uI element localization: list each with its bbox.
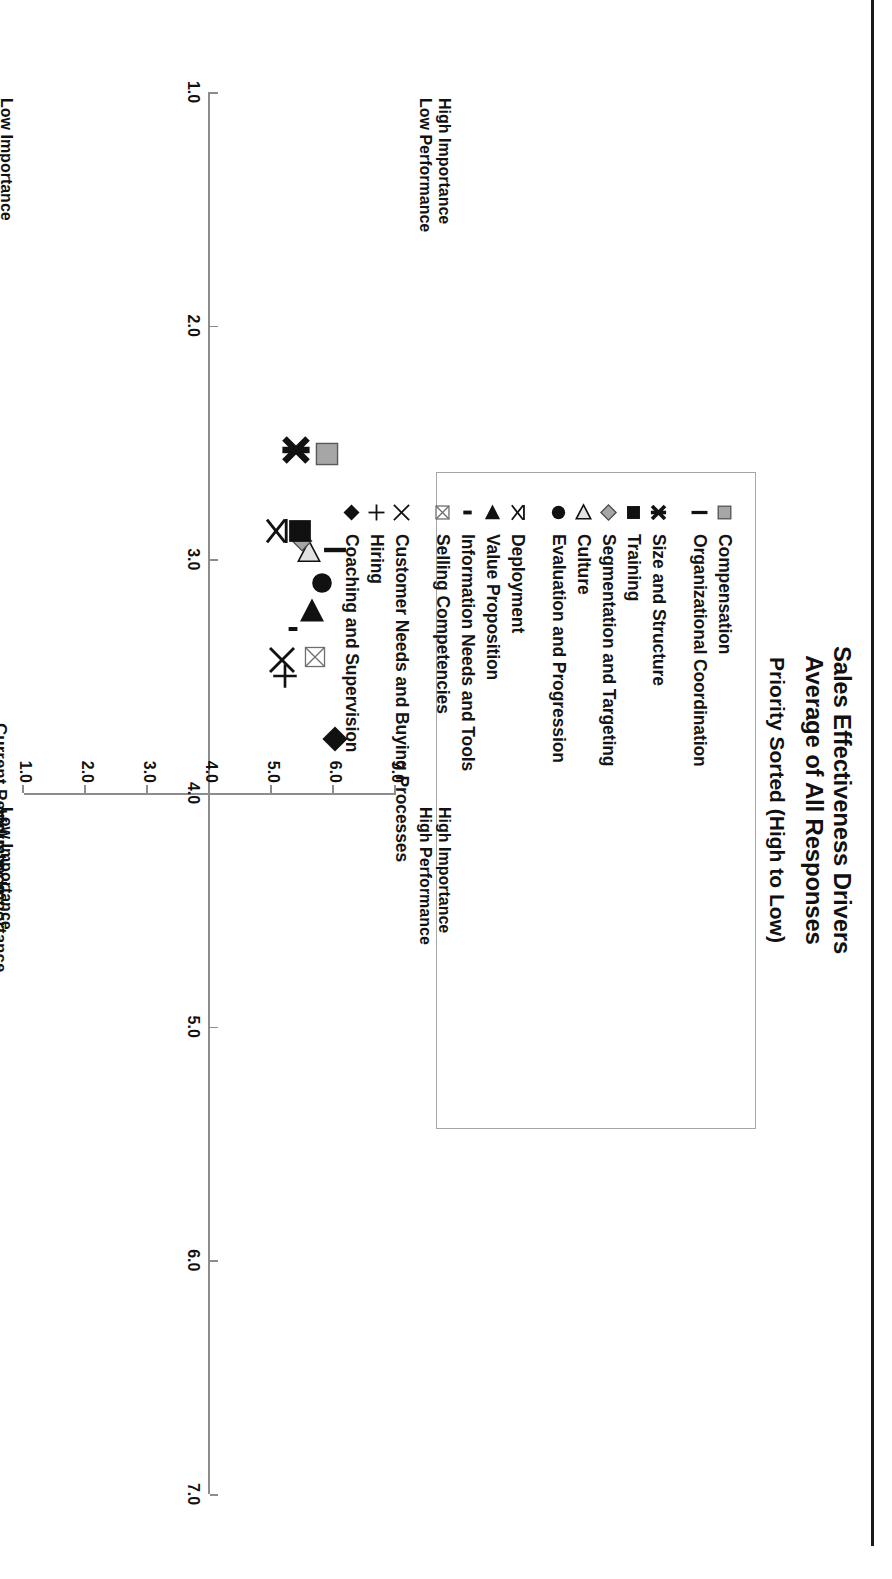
- legend-item-label: Information Needs and Tools: [457, 534, 478, 771]
- legend-item[interactable]: Size and Structure: [646, 499, 671, 1128]
- legend-item[interactable]: Culture: [571, 499, 596, 1128]
- x-tick-label: 2.0: [184, 310, 202, 342]
- page-top-rule: [871, 0, 874, 1546]
- data-point[interactable]: [275, 433, 313, 467]
- legend-item-label: Size and Structure: [648, 534, 669, 686]
- y-tick-label: 5.0: [264, 745, 282, 783]
- legend-item-label: Evaluation and Progression: [548, 534, 569, 763]
- y-tick: [271, 785, 273, 793]
- y-tick-label: 7.0: [388, 745, 406, 783]
- quadrant-label-top-left-line-1: High Importance: [435, 98, 454, 232]
- x-tick: [210, 1260, 218, 1262]
- x-tick: [210, 92, 218, 94]
- x-tick: [210, 1027, 218, 1029]
- thin-x-star-marker: [508, 499, 527, 525]
- quadrant-label-bottom-right-line-1: Low Importance: [0, 807, 16, 945]
- legend-item[interactable]: Deployment: [505, 499, 530, 1128]
- quadrant-label-top-left: High ImportanceLow Performance: [416, 98, 454, 232]
- data-point[interactable]: [318, 537, 348, 563]
- quadrant-label-top-left-line-2: Low Performance: [416, 98, 435, 232]
- legend-item-label: Selling Competencies: [432, 534, 453, 714]
- black-triangle-left-marker: [483, 499, 502, 525]
- y-tick: [147, 785, 149, 793]
- title-line-2: Average of All Responses: [800, 540, 828, 1060]
- black-circle-marker: [549, 499, 568, 525]
- black-square-marker: [624, 499, 643, 525]
- legend-item[interactable]: Organizational Coordination: [687, 499, 712, 1128]
- crossed-square-marker: [433, 499, 452, 525]
- y-tick: [395, 785, 397, 793]
- x-tick: [210, 793, 218, 795]
- chart-root: Sales Effectiveness Drivers Average of A…: [0, 0, 892, 1579]
- legend-item-label: Deployment: [507, 534, 528, 633]
- legend-item[interactable]: Information Needs and Tools: [455, 499, 480, 1128]
- gray-square-marker: [715, 499, 734, 525]
- legend-item[interactable]: Value Proposition: [480, 499, 505, 1128]
- page-title: Sales Effectiveness Drivers Average of A…: [800, 540, 856, 1060]
- legend-item-label: Organizational Coordination: [689, 534, 710, 767]
- legend-group: CompensationOrganizational Coordination: [687, 499, 737, 1128]
- quadrant-label-bottom-left-line-1: Low Importance: [0, 98, 16, 232]
- y-tick-label: 3.0: [140, 745, 158, 783]
- legend-item-label: Segmentation and Targeting: [598, 534, 619, 766]
- legend-item-label: Value Proposition: [482, 534, 503, 680]
- x-tick-label: 6.0: [184, 1244, 202, 1276]
- legend-item[interactable]: Compensation: [712, 499, 737, 1128]
- title-line-1: Sales Effectiveness Drivers: [828, 540, 856, 1060]
- x-tick-label: 1.0: [184, 76, 202, 108]
- data-point[interactable]: [307, 438, 343, 470]
- legend-item[interactable]: Segmentation and Targeting: [596, 499, 621, 1128]
- x-tick: [210, 326, 218, 328]
- data-point[interactable]: [304, 569, 336, 597]
- data-point[interactable]: [297, 643, 329, 671]
- x-tick-label: 3.0: [184, 543, 202, 575]
- gray-diamond-marker: [599, 499, 618, 525]
- quadrant-label-bottom-left: Low ImportanceLow Performance: [0, 98, 16, 232]
- y-tick-label: 2.0: [78, 745, 96, 783]
- y-tick: [23, 785, 25, 793]
- legend-items-container: CompensationOrganizational CoordinationS…: [339, 473, 755, 1128]
- quadrant-label-top-right-line-2: High Performance: [416, 807, 435, 945]
- y-tick: [85, 785, 87, 793]
- y-tick: [209, 785, 211, 793]
- chart-legend: CompensationOrganizational CoordinationS…: [436, 472, 756, 1129]
- data-point[interactable]: [316, 724, 350, 754]
- chart-subtitle: Priority Sorted (High to Low): [765, 540, 789, 1060]
- plot-area: 1.02.03.04.05.06.07.01.02.03.04.05.06.07…: [24, 92, 396, 1494]
- legend-item-label: Compensation: [714, 534, 735, 654]
- open-triangle-left-marker: [574, 499, 593, 525]
- legend-item-label: Training: [623, 534, 644, 601]
- y-tick: [333, 785, 335, 793]
- x-tick-label: 4.0: [184, 777, 202, 809]
- data-point[interactable]: [257, 516, 291, 546]
- x-tick-label: 5.0: [184, 1011, 202, 1043]
- legend-item[interactable]: Evaluation and Progression: [546, 499, 571, 1128]
- data-point[interactable]: [293, 596, 327, 626]
- quadrant-label-bottom-right: Low ImportanceHigh Performance: [0, 807, 16, 945]
- data-point[interactable]: [263, 645, 297, 675]
- black-dash-marker: [458, 499, 477, 525]
- y-tick-label: 4.0: [202, 745, 220, 783]
- legend-group: Size and StructureTrainingSegmentation a…: [546, 499, 671, 1128]
- x-tick-label: 7.0: [184, 1478, 202, 1510]
- y-tick-label: 1.0: [16, 745, 34, 783]
- x-tick: [210, 1494, 218, 1496]
- black-vbar-marker: [690, 499, 709, 525]
- quadrant-label-top-right: High ImportanceHigh Performance: [416, 807, 454, 945]
- quadrant-label-top-right-line-1: High Importance: [435, 807, 454, 945]
- legend-item-label: Culture: [573, 534, 594, 595]
- rotated-chart-stage: Sales Effectiveness Drivers Average of A…: [0, 0, 892, 1579]
- black-asterisk-marker: [649, 499, 668, 525]
- legend-item[interactable]: Training: [621, 499, 646, 1128]
- x-tick: [210, 559, 218, 561]
